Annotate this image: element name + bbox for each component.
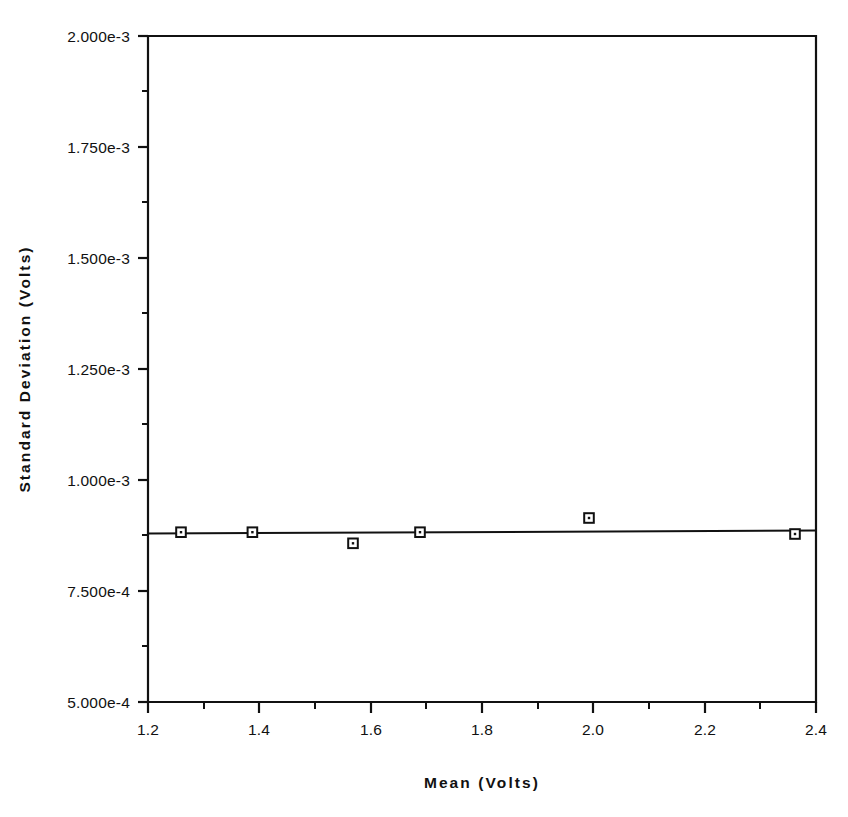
scatter-plot-canvas: 2.000e-3 1.750e-3 1.500e-3 1.250e-3 1.00…: [0, 0, 848, 817]
marker-center-dot: [419, 531, 421, 533]
marker-center-dot: [794, 533, 796, 535]
x-axis-title: Mean (Volts): [424, 774, 540, 791]
marker-center-dot: [588, 517, 590, 519]
data-point: [790, 529, 800, 539]
x-tick-label: 1.4: [248, 721, 270, 738]
marker-center-dot: [251, 531, 253, 533]
x-tick-label: 2.4: [805, 721, 827, 738]
data-point: [248, 527, 258, 537]
x-tick-label: 1.8: [471, 721, 493, 738]
y-tick-label: 1.750e-3: [67, 139, 130, 156]
figure-container: 2.000e-3 1.750e-3 1.500e-3 1.250e-3 1.00…: [0, 0, 848, 817]
marker-center-dot: [352, 542, 354, 544]
y-tick-label: 2.000e-3: [67, 28, 130, 45]
y-tick-label: 5.000e-4: [67, 694, 130, 711]
data-point: [415, 527, 425, 537]
y-tick-label: 1.250e-3: [67, 361, 130, 378]
data-point: [348, 539, 358, 549]
data-point: [176, 527, 186, 537]
x-tick-label: 1.2: [137, 721, 159, 738]
data-point: [584, 513, 594, 523]
y-axis-title: Standard Deviation (Volts): [16, 245, 33, 492]
x-tick-label: 2.2: [694, 721, 716, 738]
y-tick-label: 1.000e-3: [67, 472, 130, 489]
x-tick-label: 2.0: [582, 721, 604, 738]
y-tick-label: 7.500e-4: [67, 583, 130, 600]
x-tick-label: 1.6: [360, 721, 382, 738]
y-tick-label: 1.500e-3: [67, 250, 130, 267]
marker-center-dot: [180, 531, 182, 533]
